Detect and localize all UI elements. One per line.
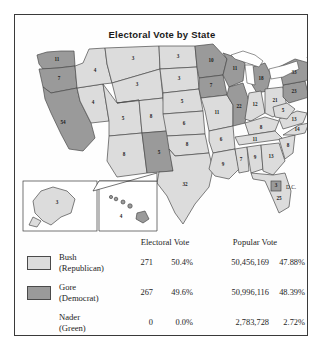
page-title: Electoral Vote by State bbox=[15, 29, 309, 40]
legend-candidate-bush: Bush (Republican) bbox=[59, 252, 129, 273]
state-label-MS: 7 bbox=[240, 156, 243, 162]
state-label-AR: 6 bbox=[220, 136, 223, 142]
state-label-ND: 3 bbox=[177, 53, 180, 59]
state-label-IA: 7 bbox=[210, 82, 213, 88]
candidate-name-bush: Bush bbox=[59, 252, 129, 263]
state-label-AK: 3 bbox=[56, 199, 59, 205]
nader-electoral-pct: 0.0% bbox=[159, 318, 193, 327]
dc-label: D.C. bbox=[286, 184, 296, 190]
state-label-OR: 7 bbox=[58, 75, 61, 81]
figure-frame: Electoral Vote by State bbox=[14, 14, 308, 336]
legend-row-nader[interactable]: Nader (Green) 0 0.0% 2,783,728 2.72% bbox=[15, 313, 309, 339]
gore-electoral-votes: 267 bbox=[127, 288, 153, 297]
state-label-NE: 5 bbox=[181, 98, 184, 104]
legend-candidate-gore: Gore (Democrat) bbox=[59, 282, 129, 303]
candidate-name-gore: Gore bbox=[59, 282, 129, 293]
header-electoral-vote: Electoral Vote bbox=[129, 237, 201, 247]
state-label-AL: 9 bbox=[254, 154, 257, 160]
state-label-ID: 4 bbox=[94, 67, 97, 73]
state-label-MT: 3 bbox=[132, 55, 135, 61]
figure-root: Electoral Vote by State bbox=[0, 0, 322, 352]
state-label-PA: 23 bbox=[291, 88, 297, 94]
gore-electoral-pct: 49.6% bbox=[159, 288, 193, 297]
state-label-TN: 11 bbox=[253, 136, 258, 142]
state-label-DC: 3 bbox=[275, 182, 278, 188]
legend-column-headers: Electoral Vote Popular Vote bbox=[15, 237, 309, 251]
state-label-SC: 8 bbox=[287, 142, 290, 148]
state-label-LA: 9 bbox=[222, 161, 225, 167]
state-label-KS: 6 bbox=[183, 120, 186, 126]
bush-electoral-votes: 271 bbox=[127, 258, 153, 267]
gore-popular-pct: 48.39% bbox=[273, 288, 305, 297]
state-label-CO: 8 bbox=[150, 113, 153, 119]
state-IA[interactable] bbox=[199, 75, 227, 98]
lake-michigan bbox=[245, 65, 255, 85]
gore-popular-votes: 50,996,116 bbox=[207, 288, 269, 297]
header-popular-vote: Popular Vote bbox=[211, 237, 299, 247]
state-label-VA: 13 bbox=[291, 116, 297, 122]
legend-row-gore[interactable]: Gore (Democrat) 267 49.6% 50,996,116 48.… bbox=[15, 283, 309, 309]
state-label-WA: 11 bbox=[55, 56, 60, 62]
state-label-NC: 14 bbox=[294, 126, 300, 132]
state-label-KY: 8 bbox=[260, 124, 263, 130]
bush-popular-votes: 50,456,169 bbox=[207, 258, 269, 267]
nader-electoral-votes: 0 bbox=[127, 318, 153, 327]
state-label-NY: 33 bbox=[291, 69, 297, 75]
bush-electoral-pct: 50.4% bbox=[159, 258, 193, 267]
legend-candidate-nader: Nader (Green) bbox=[59, 312, 129, 333]
hawaii-island-3 bbox=[121, 200, 125, 204]
state-label-NM: 5 bbox=[158, 149, 161, 155]
state-label-MI: 18 bbox=[258, 75, 264, 81]
state-label-NV: 4 bbox=[92, 99, 95, 105]
state-AZ[interactable] bbox=[107, 133, 147, 177]
state-label-WY: 3 bbox=[136, 81, 139, 87]
hawaii-island-1 bbox=[109, 195, 112, 198]
electoral-map: 11 7 54 4 4 3 3 5 8 8 5 3 3 5 6 8 32 10 … bbox=[17, 41, 307, 241]
nader-popular-pct: 2.72% bbox=[273, 318, 305, 327]
state-FL[interactable] bbox=[251, 173, 291, 213]
candidate-party-nader: (Green) bbox=[59, 323, 129, 334]
legend-swatch-gore bbox=[27, 286, 51, 300]
state-label-TX: 32 bbox=[182, 181, 188, 187]
state-label-OK: 8 bbox=[186, 141, 189, 147]
legend-table: Electoral Vote Popular Vote Bush (Republ… bbox=[15, 237, 309, 333]
state-label-IN: 12 bbox=[252, 101, 258, 107]
hawaii-island-2 bbox=[114, 197, 118, 201]
state-label-GA: 13 bbox=[268, 153, 274, 159]
state-label-WI: 11 bbox=[233, 65, 238, 71]
legend-row-bush[interactable]: Bush (Republican) 271 50.4% 50,456,169 4… bbox=[15, 253, 309, 279]
nader-popular-votes: 2,783,728 bbox=[207, 318, 269, 327]
legend-swatch-bush bbox=[27, 256, 51, 270]
state-label-MO: 11 bbox=[215, 109, 220, 115]
candidate-name-nader: Nader bbox=[59, 312, 129, 323]
state-label-SD: 3 bbox=[178, 75, 181, 81]
state-label-WV: 5 bbox=[282, 107, 285, 113]
state-label-HI: 4 bbox=[120, 213, 123, 219]
state-label-CA: 54 bbox=[60, 119, 66, 125]
state-label-IL: 22 bbox=[236, 103, 242, 109]
state-label-AZ: 8 bbox=[123, 151, 126, 157]
state-label-UT: 5 bbox=[122, 115, 125, 121]
candidate-party-gore: (Democrat) bbox=[59, 293, 129, 304]
state-label-MN: 10 bbox=[208, 57, 214, 63]
hawaii-island-4 bbox=[128, 204, 132, 208]
candidate-party-bush: (Republican) bbox=[59, 263, 129, 274]
state-label-FL: 25 bbox=[276, 195, 282, 201]
bush-popular-pct: 47.88% bbox=[273, 258, 305, 267]
state-label-OH: 21 bbox=[272, 97, 278, 103]
